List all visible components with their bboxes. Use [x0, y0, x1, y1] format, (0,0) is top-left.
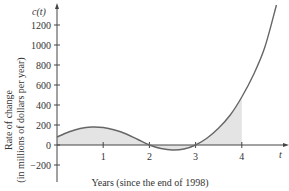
y-tick-label: 1200 [31, 20, 51, 31]
x-axis-name: t [279, 149, 282, 160]
y-tick-label: 1000 [31, 40, 51, 51]
y-axis-label-line2: (in millions of dollars per year) [15, 57, 27, 182]
y-axis-arrow-icon [55, 3, 59, 9]
x-tick-label: 4 [239, 151, 244, 162]
chart: 120010008006004002000−200 1234 c(t) t Ye… [0, 0, 289, 191]
y-tick-label: 0 [46, 140, 51, 151]
x-axis-arrow-icon [283, 143, 289, 147]
y-tick-label: 600 [36, 80, 51, 91]
y-axis-label-line1: Rate of change [3, 89, 14, 150]
x-tick-label: 2 [147, 151, 152, 162]
y-tick-label: −200 [30, 160, 51, 171]
x-axis-label: Years (since the end of 1998) [91, 177, 208, 189]
y-tick-label: 400 [36, 100, 51, 111]
y-tick-label: 800 [36, 60, 51, 71]
y-axis-name: c(t) [32, 6, 47, 18]
y-tick-label: 200 [36, 120, 51, 131]
axes [57, 6, 286, 182]
x-tick-label: 3 [193, 151, 198, 162]
y-ticks: 120010008006004002000−200 [30, 20, 60, 171]
x-tick-label: 1 [101, 151, 106, 162]
